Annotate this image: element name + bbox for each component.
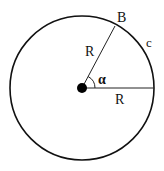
angle-arc bbox=[88, 77, 95, 89]
label-angle-alpha: α bbox=[98, 72, 106, 87]
label-radius-lower: R bbox=[115, 92, 125, 107]
circle-diagram: B c R R α bbox=[0, 0, 164, 171]
label-radius-upper: R bbox=[85, 44, 95, 59]
center-point bbox=[77, 83, 87, 93]
label-point-b: B bbox=[117, 10, 126, 25]
label-arc-c: c bbox=[146, 35, 152, 50]
